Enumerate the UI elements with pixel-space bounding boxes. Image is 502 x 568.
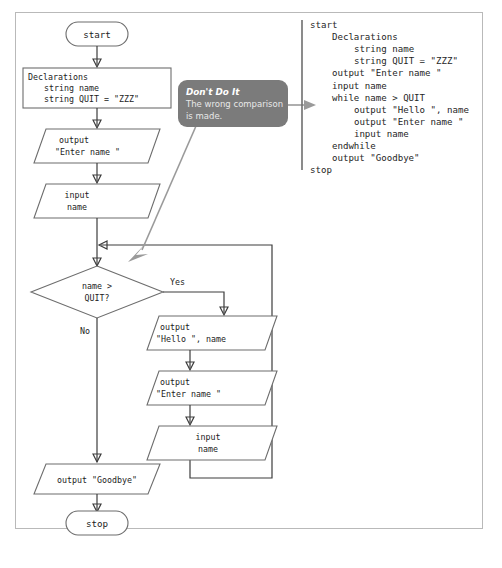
pseudocode-line: output "Enter name " <box>332 68 442 78</box>
declarations-line-1: string name <box>44 83 99 93</box>
declarations-heading: Declarations <box>28 72 88 82</box>
pseudocode-block: startDeclarationsstring namestring QUIT … <box>310 20 469 175</box>
output-prompt-2-line-2: "Enter name " <box>156 389 221 399</box>
decision-yes-label: Yes <box>170 277 185 287</box>
output-prompt-1-parallelogram <box>34 129 160 163</box>
output-hello-line-2: "Hello ", name <box>156 334 226 344</box>
pseudocode-line: string QUIT = "ZZZ" <box>354 56 458 66</box>
decision-no-label: No <box>80 326 90 336</box>
pseudocode-line: endwhile <box>332 141 376 151</box>
output-goodbye-line-1: output "Goodbye" <box>57 475 137 485</box>
pseudocode-line: start <box>310 20 337 30</box>
callout-pointer-arrowhead-right <box>304 100 316 110</box>
pseudocode-line: input name <box>354 129 409 139</box>
decision-line-1: name > <box>82 281 112 291</box>
pseudocode-line: output "Enter name " <box>354 117 464 127</box>
input-1-line-2: name <box>67 202 87 212</box>
input-1-line-1: input <box>65 190 90 200</box>
start-terminator-label: start <box>83 29 111 40</box>
pseudocode-line: input name <box>332 81 387 91</box>
flowchart-diagram: start Declarations string name string QU… <box>0 0 502 568</box>
decision-line-2: QUIT? <box>85 293 110 303</box>
figure-container: start Declarations string name string QU… <box>0 0 502 568</box>
callout-body-line-2: is made. <box>186 111 222 121</box>
stop-terminator-label: stop <box>86 518 108 529</box>
input-1-parallelogram <box>34 184 160 218</box>
callout-pointer-arrowhead-left <box>128 243 148 262</box>
output-prompt-1-line-2: "Enter name " <box>55 147 120 157</box>
callout-body-line-1: The wrong comparison <box>185 99 283 109</box>
pseudocode-line: output "Hello ", name <box>354 105 469 115</box>
output-hello-line-1: output <box>160 322 190 332</box>
callout-title: Don't Do It <box>186 87 240 97</box>
output-prompt-2-line-1: output <box>160 377 190 387</box>
decision-diamond <box>31 266 163 318</box>
pseudocode-line: output "Goodbye" <box>332 153 420 163</box>
input-2-line-1: input <box>196 432 221 442</box>
flowline-yes-branch <box>163 292 224 313</box>
pseudocode-line: string name <box>354 44 414 54</box>
output-prompt-1-line-1: output <box>59 135 89 145</box>
declarations-line-2: string QUIT = "ZZZ" <box>44 94 139 104</box>
pseudocode-line: Declarations <box>332 32 398 42</box>
pseudocode-line: stop <box>310 165 332 175</box>
pseudocode-line: while name > QUIT <box>332 93 426 103</box>
input-2-line-2: name <box>198 444 218 454</box>
